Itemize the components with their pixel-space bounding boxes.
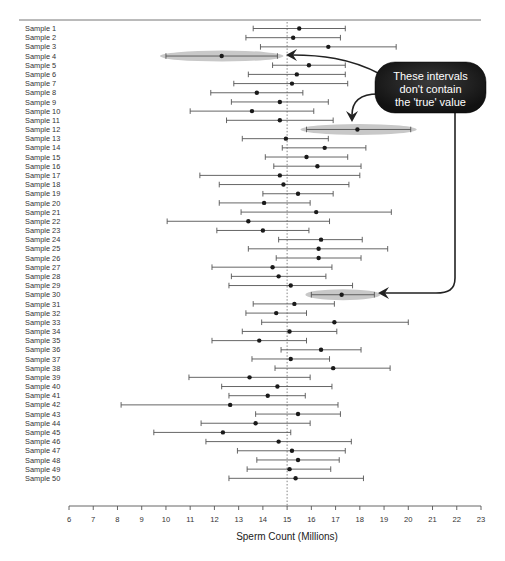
mean-point	[228, 403, 232, 407]
mean-point	[276, 274, 280, 278]
interval-row	[212, 264, 332, 270]
mean-point	[290, 81, 294, 85]
interval-row	[229, 476, 364, 482]
mean-point	[270, 265, 274, 269]
sample-label: Sample 10	[25, 107, 60, 116]
x-tick-label: 17	[331, 515, 339, 524]
mean-point	[257, 338, 261, 342]
interval-row	[229, 393, 305, 399]
interval-row	[219, 200, 310, 206]
mean-point	[253, 421, 257, 425]
x-axis: 67891011121314151617181920212223	[67, 506, 485, 524]
mean-point	[289, 357, 293, 361]
callout-line-3: the 'true' value	[395, 96, 466, 108]
interval-row	[190, 108, 314, 114]
interval-row	[253, 26, 345, 32]
interval-row	[279, 237, 363, 243]
arrow-to-sample-12	[352, 94, 378, 115]
interval-row	[242, 329, 337, 335]
mean-point	[287, 467, 291, 471]
interval-row	[229, 283, 353, 289]
interval-row	[231, 99, 328, 105]
sample-label: Sample 16	[25, 162, 60, 171]
sample-label: Sample 49	[25, 465, 60, 474]
sample-label: Sample 11	[25, 116, 60, 125]
interval-row	[222, 384, 332, 390]
interval-row	[246, 35, 341, 41]
mean-point	[339, 293, 343, 297]
x-tick-label: 20	[404, 515, 412, 524]
interval-row	[219, 182, 349, 188]
mean-point	[319, 237, 323, 241]
sample-label: Sample 40	[25, 382, 60, 391]
mean-point	[246, 219, 250, 223]
mean-point	[319, 348, 323, 352]
sample-label: Sample 13	[25, 134, 60, 143]
sample-label: Sample 19	[25, 189, 60, 198]
callout-line-2: don't contain	[399, 83, 461, 95]
sample-label: Sample 50	[25, 474, 60, 483]
interval-row	[260, 44, 396, 50]
mean-point	[322, 146, 326, 150]
interval-row	[275, 365, 390, 371]
interval-row	[265, 154, 347, 160]
mean-point	[290, 449, 294, 453]
interval-row	[282, 145, 366, 151]
interval-row	[121, 402, 338, 408]
sample-label: Sample 33	[25, 318, 60, 327]
mean-point	[296, 412, 300, 416]
mean-point	[295, 72, 299, 76]
interval-row	[201, 420, 310, 426]
mean-point	[316, 256, 320, 260]
x-tick-label: 9	[140, 515, 144, 524]
sample-label: Sample 15	[25, 153, 60, 162]
interval-row	[211, 90, 303, 96]
mean-point	[278, 118, 282, 122]
sample-label: Sample 39	[25, 373, 60, 382]
mean-point	[316, 247, 320, 251]
interval-row	[167, 218, 329, 224]
mean-point	[261, 228, 265, 232]
mean-point	[255, 91, 259, 95]
interval-row	[212, 338, 307, 344]
x-tick-label: 23	[477, 515, 485, 524]
x-tick-label: 13	[234, 515, 242, 524]
sample-label: Sample 46	[25, 437, 60, 446]
interval-row	[241, 209, 391, 215]
x-tick-label: 16	[307, 515, 315, 524]
interval-row	[257, 457, 339, 463]
sample-label: Sample 22	[25, 217, 60, 226]
sample-label: Sample 44	[25, 419, 60, 428]
sample-label: Sample 43	[25, 410, 60, 419]
mean-point	[221, 430, 225, 434]
sample-label: Sample 47	[25, 446, 60, 455]
sample-label: Sample 17	[25, 171, 60, 180]
interval-row	[252, 356, 330, 362]
mean-point	[297, 26, 301, 30]
mean-point	[291, 35, 295, 39]
interval-row	[248, 72, 345, 78]
sample-label: Sample 1	[25, 24, 56, 33]
x-tick-label: 15	[283, 515, 291, 524]
mean-point	[281, 182, 285, 186]
sample-label: Sample 21	[25, 208, 60, 217]
interval-row	[242, 136, 328, 142]
sample-label: Sample 45	[25, 428, 60, 437]
sample-label: Sample 14	[25, 143, 60, 152]
interval-row	[248, 246, 387, 252]
sample-label: Sample 2	[25, 33, 56, 42]
sample-label: Sample 38	[25, 364, 60, 373]
mean-point	[278, 100, 282, 104]
callout-line-1: These intervals	[393, 70, 468, 82]
sample-label: Sample 48	[25, 456, 60, 465]
sample-label: Sample 41	[25, 391, 60, 400]
x-tick-label: 21	[428, 515, 436, 524]
mean-point	[262, 201, 266, 205]
mean-point	[292, 302, 296, 306]
interval-row	[200, 173, 360, 179]
sample-label: Sample 35	[25, 336, 60, 345]
mean-point	[250, 109, 254, 113]
mean-point	[219, 54, 223, 58]
arrow-to-sample-30	[384, 112, 455, 293]
sample-label: Sample 3	[25, 42, 56, 51]
